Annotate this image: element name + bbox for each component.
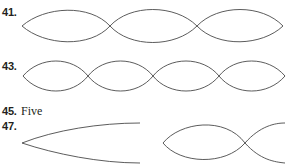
wave-figure-47-right xyxy=(163,123,285,163)
wave-figure-47-left xyxy=(22,123,140,163)
wave-figure-43 xyxy=(23,61,285,91)
wave-figure-41 xyxy=(22,10,283,43)
standing-wave-figures xyxy=(0,0,288,165)
